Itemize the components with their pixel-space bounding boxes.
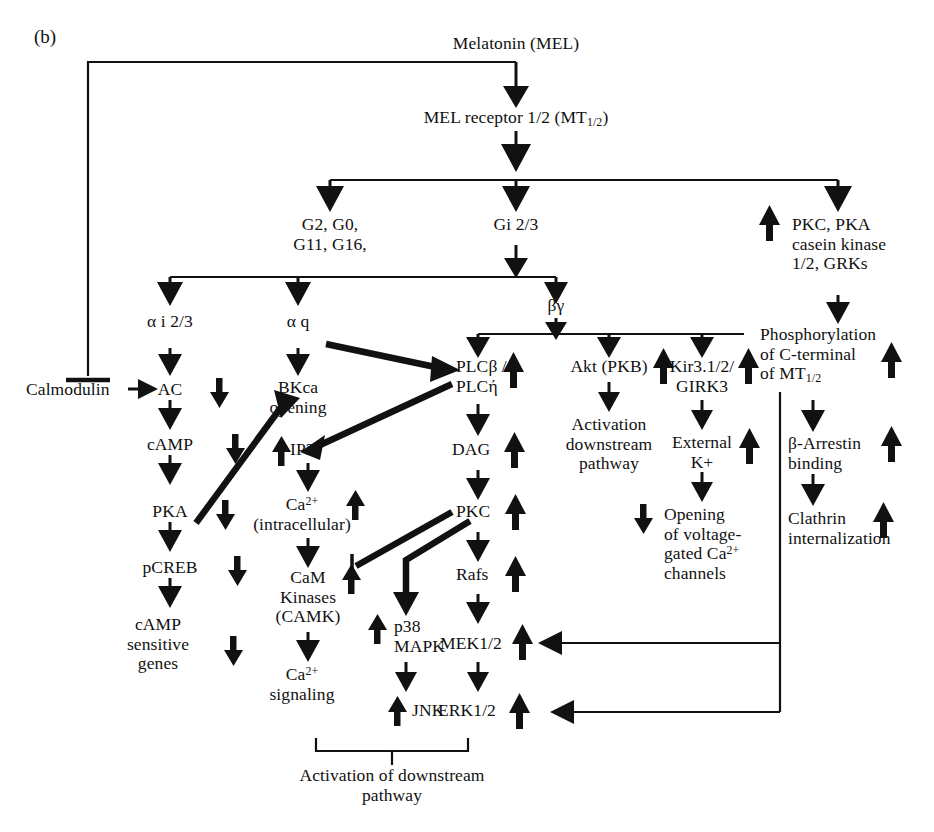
- arrow-alphai-to-ac: [158, 348, 182, 376]
- arrow-pkc-to-rafs: [466, 532, 490, 562]
- arrow-calmodulin-to-ac: [128, 379, 158, 399]
- node-alpha-i: α i 2/3: [147, 312, 193, 332]
- node-ca-intracellular: Ca2+(intracellular): [253, 495, 351, 534]
- up-arrow-dag: [504, 432, 525, 468]
- up-arrow-rafs: [505, 556, 526, 592]
- node-pka: PKA: [152, 502, 187, 522]
- up-arrow-jnk: [388, 696, 407, 726]
- node-dag: DAG: [452, 440, 490, 460]
- arrow-camp-to-pka: [158, 455, 182, 485]
- arrow-rafs-to-mek: [466, 594, 490, 624]
- node-ip3: IP3: [290, 440, 315, 460]
- bottom-brace: [316, 738, 468, 765]
- node-g-family: G2, G0,G11, G16,: [293, 215, 367, 254]
- inhibition-pkc-to-cam: [352, 512, 452, 588]
- node-camp-genes: cAMPsensitivegenes: [127, 615, 189, 674]
- panel-label: (b): [34, 26, 56, 48]
- node-plc: PLCβ /PLCή: [456, 357, 507, 396]
- node-pcreb: pCREB: [143, 558, 198, 578]
- node-erk: ERK1/2: [438, 701, 496, 721]
- up-arrow-external-k: [739, 428, 760, 464]
- arrow-pka-to-pcreb: [158, 522, 182, 552]
- arrow-alphaq-to-plc: [326, 344, 460, 382]
- node-akt: Akt (PKB): [570, 357, 647, 377]
- up-arrow-mek: [512, 624, 533, 660]
- down-arrow-ac: [210, 378, 229, 408]
- arrow-kinases-to-phosphorylation: [826, 295, 850, 324]
- arrow-plc-to-dag: [466, 404, 490, 436]
- melatonin-signaling-diagram: (b) Melatonin (MEL) MEL receptor 1/2 (MT…: [0, 0, 934, 832]
- betagamma-branch-bus: [466, 318, 744, 358]
- up-arrow-ip3: [272, 436, 291, 466]
- node-activation-downstream: Activation of downstreampathway: [299, 766, 484, 805]
- arrow-extk-to-voltage: [691, 472, 713, 502]
- node-voltage-gated-ca: Openingof voltage-gated Ca2+channels: [664, 505, 741, 583]
- gfamily-branch-bus: [157, 277, 556, 306]
- node-beta-arrestin: β-Arrestinbinding: [788, 434, 861, 473]
- up-arrow-kir: [738, 348, 759, 384]
- up-arrow-cam: [342, 564, 361, 594]
- down-arrow-voltage-gated-ca: [634, 504, 653, 534]
- up-arrow-beta-arrestin: [881, 426, 902, 462]
- node-bkca: BKcaopening: [269, 378, 326, 417]
- arrow-arrestin-to-clathrin: [801, 474, 825, 506]
- node-alpha-q: α q: [287, 312, 310, 332]
- arrow-mel-to-receptor: [503, 62, 529, 108]
- node-melatonin: Melatonin (MEL): [453, 34, 579, 54]
- node-beta-gamma: βγ: [548, 296, 565, 316]
- node-gi-23: Gi 2/3: [494, 215, 539, 235]
- up-arrow-phosphorylation: [881, 342, 902, 378]
- node-ca-signaling: Ca2+signaling: [269, 665, 334, 704]
- down-arrow-pka: [216, 500, 235, 530]
- arrow-cam-to-casignaling: [296, 632, 320, 662]
- down-arrow-pcreb: [228, 556, 247, 586]
- up-arrow-erk: [509, 693, 530, 729]
- arrow-alphaq-to-bkca: [286, 348, 310, 376]
- node-pkc: PKC: [456, 502, 490, 522]
- node-akt-downstream: Activationdownstreampathway: [566, 415, 653, 474]
- arrow-dag-to-pkc: [466, 470, 490, 500]
- receptor-branch-bus: [316, 180, 852, 212]
- up-arrow-kinases: [759, 205, 780, 241]
- arrow-receptor-to-bus: [501, 131, 531, 172]
- down-arrow-camp-genes: [224, 636, 243, 666]
- node-kinases: PKC, PKAcasein kinase1/2, GRKs: [792, 215, 886, 274]
- node-clathrin: Clathrininternalization: [788, 509, 891, 548]
- arrow-phospho-to-arrestin: [801, 400, 825, 432]
- node-p38-mapk: p38MAPK: [394, 617, 445, 656]
- node-cam-kinases: CaMKinases(CAMK): [276, 568, 341, 627]
- down-arrow-camp: [226, 434, 245, 464]
- arrow-mek-to-erk: [467, 662, 489, 692]
- arrow-ca-to-cam: [296, 538, 320, 568]
- node-external-k: ExternalK+: [672, 433, 732, 472]
- node-mek: MEK1/2: [440, 634, 502, 654]
- arrow-kir-to-extk: [691, 400, 713, 430]
- node-camp: cAMP: [147, 435, 193, 455]
- up-arrow-p38: [368, 614, 387, 644]
- arrow-akt-to-downstream: [598, 382, 620, 412]
- arrow-ac-to-camp: [158, 400, 182, 430]
- node-mel-receptor: MEL receptor 1/2 (MT1/2): [424, 108, 609, 130]
- node-calmodulin: Calmodulin: [26, 380, 110, 400]
- up-arrow-pkc: [505, 494, 526, 530]
- arrow-ip3-to-ca: [296, 463, 320, 492]
- node-rafs: Rafs: [456, 565, 488, 585]
- arrow-pcreb-to-camp-genes: [158, 578, 182, 608]
- node-phosphorylation: Phosphorylationof C-terminalof MT1/2: [760, 325, 876, 386]
- node-ac: AC: [158, 380, 183, 400]
- arrow-p38-to-jnk: [395, 662, 417, 692]
- node-kir: Kir3.1/2/GIRK3: [670, 357, 735, 396]
